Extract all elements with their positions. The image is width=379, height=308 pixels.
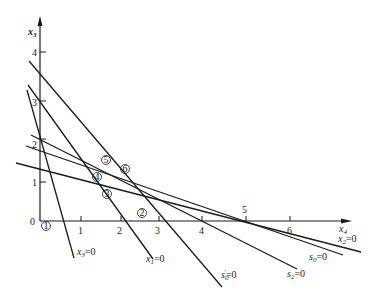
- svg-text:3: 3: [105, 188, 110, 199]
- svg-text:1: 1: [44, 220, 49, 231]
- line-x3: [27, 90, 74, 258]
- svg-text:4: 4: [95, 171, 100, 182]
- lp-feasible-region-diagram: 1 2 3 4 5 6 1 2 3 4 0 x3 x4 x3=0 x1=0 s0…: [0, 0, 379, 308]
- x-tick-3: 3: [155, 225, 160, 236]
- vertex-6: 6: [121, 163, 130, 174]
- line-x2: [16, 163, 361, 252]
- x-tick-2: 2: [117, 225, 122, 236]
- vertex-3: 3: [103, 188, 112, 199]
- y-tick-1: 1: [32, 177, 37, 188]
- y-axis-arrow-icon: [38, 16, 43, 26]
- line-s0: [26, 146, 343, 255]
- vertex-1: 1: [42, 220, 51, 231]
- label-s0: s0=0: [309, 251, 327, 264]
- label-x3: x3=0: [76, 246, 96, 259]
- origin-label: 0: [30, 216, 35, 227]
- vertex-4: 4: [93, 171, 102, 182]
- svg-text:5: 5: [104, 154, 109, 165]
- y-tick-4: 4: [32, 47, 37, 58]
- label-s2: s2=0: [287, 268, 305, 281]
- label-x1: x1=0: [145, 253, 165, 266]
- vertex-2: 2: [138, 207, 147, 218]
- axes: 1 2 3 4 5 6 1 2 3 4 0 x3 x4: [27, 16, 352, 236]
- svg-text:6: 6: [123, 163, 128, 174]
- y-tick-3: 3: [32, 97, 37, 108]
- label-s0-prime: s0′=0: [221, 268, 237, 282]
- y-axis-label: x3: [27, 26, 37, 39]
- label-x2: x2=0: [337, 233, 357, 246]
- x-tick-4: 4: [199, 225, 204, 236]
- line-x1: [28, 85, 153, 259]
- svg-text:2: 2: [140, 207, 145, 218]
- x-tick-5: 5: [242, 204, 247, 215]
- x-tick-1: 1: [78, 225, 83, 236]
